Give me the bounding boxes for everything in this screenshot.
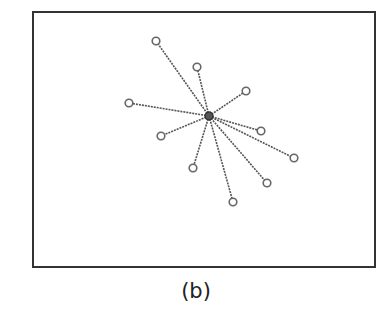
leaf-node — [263, 179, 271, 187]
graph-edge — [161, 116, 209, 136]
graph-edge — [209, 116, 233, 202]
graph-edge — [209, 116, 294, 158]
figure-caption: (b) — [0, 279, 392, 303]
graph-edge — [209, 91, 246, 116]
leaf-node — [157, 132, 165, 140]
star-graph-diagram — [0, 0, 392, 327]
leaf-node — [242, 87, 250, 95]
leaf-node — [257, 127, 265, 135]
center-node — [205, 112, 213, 120]
figure-frame — [33, 12, 375, 267]
leaf-node — [193, 63, 201, 71]
leaf-node — [189, 164, 197, 172]
graph-nodes — [125, 37, 298, 206]
leaf-node — [290, 154, 298, 162]
graph-edge — [193, 116, 209, 168]
graph-edge — [156, 41, 209, 116]
leaf-node — [229, 198, 237, 206]
leaf-node — [125, 99, 133, 107]
graph-edges — [129, 41, 294, 202]
graph-edge — [129, 103, 209, 116]
leaf-node — [152, 37, 160, 45]
